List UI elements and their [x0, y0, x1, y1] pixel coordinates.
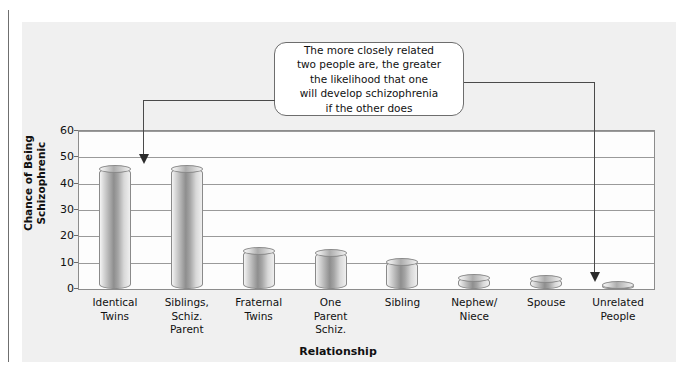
bar-top-ellipse	[171, 165, 203, 173]
bar-top-ellipse	[386, 258, 418, 266]
y-axis-tick-label: 30	[40, 204, 74, 215]
bar	[223, 131, 295, 289]
bar-top-ellipse	[243, 247, 275, 255]
x-axis-title: Relationship	[0, 345, 676, 358]
x-axis-labels: IdenticalTwinsSiblings,Schiz.ParentFrate…	[79, 296, 654, 342]
annotation-callout-text: The more closely relatedtwo people are, …	[291, 43, 447, 115]
bar	[367, 131, 439, 289]
bar-column	[530, 278, 562, 289]
bar-column	[99, 168, 131, 289]
bar-top-ellipse	[458, 274, 490, 282]
bar-column	[243, 250, 275, 290]
leader-line-right-vertical	[594, 82, 595, 274]
bar	[438, 131, 510, 289]
bar-column	[602, 284, 634, 289]
annotation-callout: The more closely relatedtwo people are, …	[274, 42, 464, 116]
bar	[582, 131, 654, 289]
y-axis-tick-label: 10	[40, 256, 74, 267]
x-axis-tick-label: Siblings,Schiz.Parent	[150, 296, 224, 337]
leader-line-right-horizontal	[464, 82, 595, 83]
bar-column	[458, 277, 490, 289]
bar-top-ellipse	[99, 165, 131, 173]
bar-column	[386, 261, 418, 289]
leader-line-left-vertical	[143, 100, 144, 156]
leader-arrow-unrelated-people	[590, 272, 600, 282]
bar-column	[171, 168, 203, 289]
y-axis-tick-label: 40	[40, 177, 74, 188]
x-axis-tick-label: Sibling	[365, 296, 439, 310]
bar-series	[79, 131, 654, 289]
leader-line-left-horizontal	[143, 100, 275, 101]
bar-top-ellipse	[315, 249, 347, 257]
x-axis-tick-label: UnrelatedPeople	[581, 296, 655, 323]
bar-column	[315, 252, 347, 289]
bar	[295, 131, 367, 289]
bar	[510, 131, 582, 289]
y-axis-tick-label: 0	[40, 283, 74, 294]
y-axis-tick-label: 50	[40, 151, 74, 162]
page-edge-rule	[8, 10, 9, 362]
x-axis-tick-label: OneParentSchiz.	[294, 296, 368, 337]
bar-top-ellipse	[602, 281, 634, 289]
y-axis-tick-label: 20	[40, 230, 74, 241]
leader-arrow-identical-twins	[139, 154, 149, 164]
x-axis-tick-label: IdenticalTwins	[78, 296, 152, 323]
bar	[151, 131, 223, 289]
x-axis-tick-label: FraternalTwins	[222, 296, 296, 323]
y-axis-tick-label: 60	[40, 125, 74, 136]
y-axis-ticks: 0102030405060	[38, 130, 74, 290]
x-axis-tick-label: Nephew/Niece	[437, 296, 511, 323]
x-axis-tick-label: Spouse	[509, 296, 583, 310]
bar-top-ellipse	[530, 275, 562, 283]
